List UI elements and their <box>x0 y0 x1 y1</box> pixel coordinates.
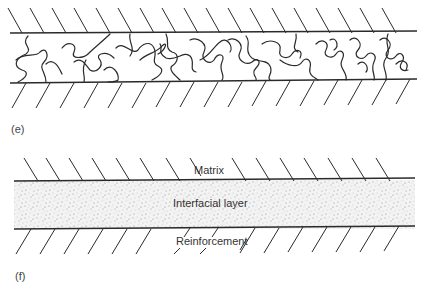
bottom-surface-line <box>10 79 417 83</box>
bottom-surface-hatching <box>12 79 410 108</box>
panel-f-label: (f) <box>15 270 25 282</box>
matrix-label: Matrix <box>194 164 224 176</box>
top-surface-line <box>10 31 417 33</box>
panel-e-label: (e) <box>11 123 24 135</box>
interfacial-layer-label: Interfacial layer <box>173 197 248 209</box>
polymer-chains <box>16 34 408 82</box>
top-surface-hatching <box>8 8 396 33</box>
reinforcement-label: Reinforcement <box>176 235 248 247</box>
panel-e <box>8 8 417 108</box>
